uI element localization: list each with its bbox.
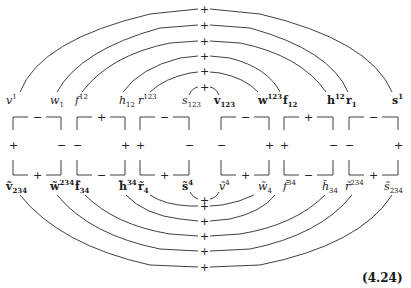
top-sign: +	[200, 50, 209, 63]
arc-bot-5-left	[150, 195, 198, 206]
top-label: w123	[257, 92, 282, 107]
box-6: − − + +	[345, 111, 403, 182]
arc-top-3-right	[210, 41, 326, 92]
box-sign-bottom: −	[304, 169, 313, 182]
box-sign-top: −	[33, 111, 42, 124]
arc-bot-2-left	[57, 195, 198, 251]
pairing-diagram: + + + + + + + + + + + + − +	[0, 0, 411, 288]
top-label: h12	[119, 94, 135, 109]
box-sign-top: −	[369, 111, 378, 124]
box-sign-bottom: +	[33, 169, 42, 182]
bottom-sign: +	[200, 245, 209, 258]
bottom-label: f̃34	[282, 179, 297, 193]
box-sign-right: +	[265, 139, 274, 152]
box-sign-left: −	[217, 139, 226, 152]
box-sign-right: −	[57, 139, 66, 152]
top-label: v123	[213, 94, 235, 109]
top-label: f12	[283, 94, 298, 109]
top-labels: v1w1f12h12r123s123v123w123f12h12r1s1	[6, 92, 403, 109]
arc-top-4-right	[210, 56, 280, 92]
arc-bot-5-right	[210, 195, 254, 206]
top-sign: +	[200, 81, 209, 94]
arc-top-5-right	[210, 72, 258, 92]
bottom-label: s̃234	[384, 180, 404, 195]
top-label: h12	[327, 92, 345, 107]
top-sign: +	[200, 19, 209, 32]
top-arc-signs: + + + + + +	[200, 3, 209, 94]
box-4: − − + +	[217, 111, 274, 182]
arc-top-1-right	[210, 9, 392, 92]
arc-bot-4-right	[210, 195, 275, 221]
bottom-label: w̃4	[258, 180, 272, 195]
box-sign-left: −	[345, 139, 354, 152]
bottom-sign: +	[200, 215, 209, 228]
bottom-label: r̃234	[345, 179, 364, 193]
box-sign-bottom: +	[241, 169, 250, 182]
bottom-label: ṽ4	[219, 179, 230, 193]
bottom-arc-signs: + + + + + +	[200, 194, 209, 274]
box-sign-left: +	[9, 139, 18, 152]
bottom-sign: +	[200, 261, 209, 274]
bottom-sign: +	[200, 200, 209, 213]
bottom-labels: ṽ234w̃234f̃34h̃34r̃4s̃4ṽ4w̃4f̃34h̃34r̃23…	[5, 178, 404, 195]
box-2: + − + −	[73, 111, 130, 182]
bottom-sign: +	[200, 230, 209, 243]
box-5: + + − −	[280, 111, 338, 182]
arc-top-5-left	[150, 72, 198, 92]
box-sign-top: +	[97, 111, 106, 124]
arc-top-1-left	[20, 9, 198, 92]
bottom-label: s̃4	[182, 178, 193, 193]
box-sign-top: +	[304, 111, 313, 124]
top-sign: +	[200, 3, 209, 16]
top-label: s123	[182, 94, 201, 109]
box-sign-right: +	[394, 139, 403, 152]
top-label: s1	[392, 92, 403, 107]
bottom-label: ṽ234	[5, 180, 27, 195]
bottom-label: r̃4	[138, 180, 149, 195]
box-3: − + − +	[136, 111, 194, 182]
arc-bot-1-right	[210, 195, 392, 267]
top-label: f12	[74, 93, 88, 107]
bottom-label: f̃34	[75, 180, 90, 195]
top-label: w1	[50, 94, 64, 109]
box-1: − + − +	[9, 111, 66, 182]
top-sign: +	[200, 65, 209, 78]
arc-bot-6-right	[210, 192, 219, 199]
box-sign-bottom: +	[369, 169, 378, 182]
arc-bot-1-left	[20, 195, 198, 267]
arc-top-3-left	[82, 41, 198, 92]
top-label: v1	[6, 93, 17, 107]
equation-number: (4.24)	[362, 271, 403, 285]
arc-bot-4-left	[126, 195, 198, 221]
box-sign-bottom: +	[160, 169, 169, 182]
box-sign-top: −	[160, 111, 169, 124]
box-sign-left: +	[136, 139, 145, 152]
top-label: r1	[346, 94, 357, 109]
bottom-label: h̃34	[118, 178, 136, 193]
box-sign-left: +	[280, 139, 289, 152]
arc-bot-6-left	[190, 192, 198, 199]
top-sign: +	[200, 35, 209, 48]
top-label: r123	[138, 93, 157, 107]
bottom-label: w̃234	[49, 178, 74, 193]
box-sign-right: +	[121, 139, 130, 152]
box-sign-bottom: −	[97, 169, 106, 182]
bottom-label: h̃34	[322, 180, 339, 195]
box-sign-left: −	[73, 139, 82, 152]
box-sign-right: −	[329, 139, 338, 152]
box-sign-top: −	[241, 111, 250, 124]
boxes: − + − + + − + − − + − + − − +	[9, 111, 403, 182]
box-sign-right: −	[185, 139, 194, 152]
arc-top-6-left	[189, 87, 198, 95]
